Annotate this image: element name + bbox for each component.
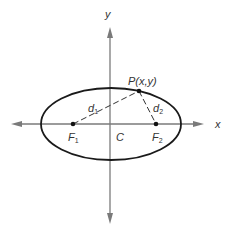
y-axis-bottom-arrow-icon [107,213,113,224]
point-p-label: P(x,y) [128,75,157,87]
d1-segment [73,91,139,124]
x-axis-right-arrow-icon [193,121,204,127]
d2-subscript: 2 [159,108,163,115]
focus-f1-label: F1 [68,131,79,144]
f1-subscript: 1 [75,137,79,144]
x-axis-left-arrow-icon [11,121,22,127]
center-c-label: C [116,131,124,143]
y-axis: y [104,8,113,224]
x-axis: x [11,118,221,130]
x-axis-label: x [214,118,221,130]
focus-f1-point [71,122,76,127]
f2-subscript: 2 [159,137,163,144]
d1-subscript: 1 [94,108,98,115]
focus-f2-point [154,122,159,127]
ellipse-diagram: x y P(x,y) d1 d2 F1 F2 [0,0,233,233]
point-p [137,89,142,94]
d2-label: d2 [153,102,163,115]
y-axis-label: y [104,8,112,20]
focus-f2-label: F2 [152,131,163,144]
d1-label: d1 [88,102,98,115]
y-axis-top-arrow-icon [107,27,113,38]
